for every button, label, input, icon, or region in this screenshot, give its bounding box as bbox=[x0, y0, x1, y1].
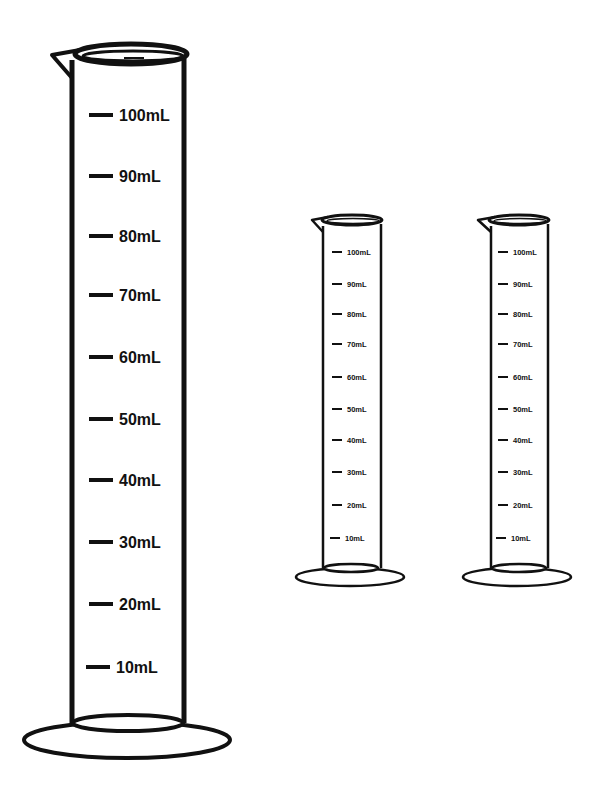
large-cylinder-graduations: 100mL 90mL 80mL 70mL 60mL 50mL 40mL 30mL… bbox=[86, 107, 170, 676]
graduation-label: 70mL bbox=[347, 340, 367, 349]
graduation-label: 90mL bbox=[119, 168, 161, 185]
small-left-graduations: 100mL 90mL 80mL 70mL 60mL 50mL 40mL 30mL… bbox=[330, 248, 371, 543]
graduation-mark: 90mL bbox=[89, 168, 161, 185]
graduation-mark: 80mL bbox=[498, 310, 533, 319]
graduation-mark: 30mL bbox=[332, 468, 367, 477]
graduation-label: 50mL bbox=[347, 405, 367, 414]
graduation-label: 80mL bbox=[513, 310, 533, 319]
graduation-mark: 30mL bbox=[498, 468, 533, 477]
graduation-label: 60mL bbox=[347, 373, 367, 382]
graduation-label: 100mL bbox=[347, 248, 371, 257]
graduation-mark: 100mL bbox=[332, 248, 371, 257]
graduation-mark: 20mL bbox=[332, 501, 367, 510]
graduation-label: 30mL bbox=[119, 534, 161, 551]
graduation-label: 40mL bbox=[119, 472, 161, 489]
graduation-mark: 20mL bbox=[89, 596, 161, 613]
graduation-mark: 70mL bbox=[89, 287, 161, 304]
small-cylinder-right bbox=[463, 215, 571, 586]
small-right-base-inner bbox=[492, 564, 546, 572]
graduation-label: 10mL bbox=[345, 534, 365, 543]
graduation-mark: 40mL bbox=[89, 472, 161, 489]
graduation-mark: 100mL bbox=[498, 248, 537, 257]
graduation-label: 30mL bbox=[513, 468, 533, 477]
graduation-label: 20mL bbox=[513, 501, 533, 510]
diagram-canvas: 100mL 90mL 80mL 70mL 60mL 50mL 40mL 30mL… bbox=[0, 0, 607, 799]
graduation-mark: 50mL bbox=[332, 405, 367, 414]
large-cylinder bbox=[24, 44, 230, 758]
large-cylinder-base-inner bbox=[73, 715, 183, 731]
graduation-mark: 60mL bbox=[498, 373, 533, 382]
graduation-label: 50mL bbox=[513, 405, 533, 414]
graduation-mark: 10mL bbox=[86, 659, 158, 676]
graduation-label: 80mL bbox=[347, 310, 367, 319]
graduation-mark: 80mL bbox=[332, 310, 367, 319]
graduation-label: 40mL bbox=[513, 436, 533, 445]
small-left-base-inner bbox=[324, 564, 378, 572]
graduation-label: 60mL bbox=[513, 373, 533, 382]
graduation-label: 70mL bbox=[119, 287, 161, 304]
graduation-label: 20mL bbox=[347, 501, 367, 510]
graduation-label: 70mL bbox=[513, 340, 533, 349]
graduation-mark: 90mL bbox=[498, 280, 533, 289]
graduation-label: 10mL bbox=[511, 534, 531, 543]
graduation-mark: 40mL bbox=[498, 436, 533, 445]
graduation-mark: 100mL bbox=[89, 107, 170, 124]
small-cylinder-left bbox=[296, 215, 404, 586]
graduation-label: 40mL bbox=[347, 436, 367, 445]
graduation-label: 100mL bbox=[513, 248, 537, 257]
graduation-label: 60mL bbox=[119, 349, 161, 366]
graduation-label: 90mL bbox=[347, 280, 367, 289]
graduation-label: 50mL bbox=[119, 411, 161, 428]
graduation-mark: 20mL bbox=[498, 501, 533, 510]
graduation-label: 90mL bbox=[513, 280, 533, 289]
graduation-mark: 60mL bbox=[89, 349, 161, 366]
graduation-mark: 90mL bbox=[332, 280, 367, 289]
graduation-mark: 70mL bbox=[332, 340, 367, 349]
graduation-mark: 50mL bbox=[498, 405, 533, 414]
graduation-label: 80mL bbox=[119, 228, 161, 245]
graduation-mark: 40mL bbox=[332, 436, 367, 445]
graduation-label: 100mL bbox=[119, 107, 170, 124]
graduation-mark: 10mL bbox=[330, 534, 365, 543]
graduation-mark: 30mL bbox=[89, 534, 161, 551]
graduation-label: 20mL bbox=[119, 596, 161, 613]
small-right-graduations: 100mL 90mL 80mL 70mL 60mL 50mL 40mL 30mL… bbox=[496, 248, 537, 543]
graduation-label: 30mL bbox=[347, 468, 367, 477]
graduation-mark: 10mL bbox=[496, 534, 531, 543]
graduation-mark: 70mL bbox=[498, 340, 533, 349]
graduation-mark: 60mL bbox=[332, 373, 367, 382]
graduation-mark: 50mL bbox=[89, 411, 161, 428]
graduation-mark: 80mL bbox=[89, 228, 161, 245]
graduation-label: 10mL bbox=[116, 659, 158, 676]
